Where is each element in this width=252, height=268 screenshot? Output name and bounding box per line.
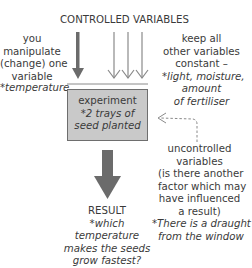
left-note-example: *temperature — [0, 82, 64, 95]
controlled-variables-label: CONTROLLED VARIABLES — [60, 14, 180, 27]
experiment-example: *2 trays of — [68, 108, 147, 121]
right-note-line: keep all — [162, 33, 241, 46]
result-example: grow fastest? — [62, 255, 152, 268]
uncontrolled-line: uncontrolled — [158, 143, 241, 156]
experiment-box: experiment *2 trays of seed planted — [67, 89, 148, 141]
experiment-title: experiment — [68, 95, 147, 108]
uncontrolled-line: (is there another — [158, 168, 241, 181]
result-example: *which — [62, 218, 152, 231]
right-note-line: constant – — [162, 58, 241, 71]
left-note-line: you — [0, 33, 64, 46]
uncontrolled-arrow — [158, 113, 197, 142]
controlled-variable-arrows — [108, 32, 148, 78]
left-note-line: manipulate — [0, 46, 64, 59]
left-note-line: (change) one — [0, 58, 64, 71]
result-arrow — [94, 150, 121, 199]
uncontrolled-line: variables — [158, 156, 241, 169]
manipulated-variable-arrow — [72, 32, 84, 79]
uncontrolled-line: have influenced — [158, 193, 241, 206]
experiment-example: seed planted — [68, 120, 147, 133]
uncontrolled-example: from the window — [158, 231, 241, 244]
result-example: temperature — [62, 230, 152, 243]
right-note-line: other variables — [162, 46, 241, 59]
right-note-example: of fertiliser — [162, 96, 241, 109]
uncontrolled-line: factor which may — [158, 181, 241, 194]
uncontrolled-example: *There is a draught — [152, 218, 244, 231]
uncontrolled-line: a result) — [158, 206, 241, 219]
result-example: makes the seeds — [62, 243, 152, 256]
result-title: RESULT — [62, 205, 152, 218]
right-note-example: amount — [162, 83, 241, 96]
right-note-example: *light, moisture, — [162, 71, 241, 84]
